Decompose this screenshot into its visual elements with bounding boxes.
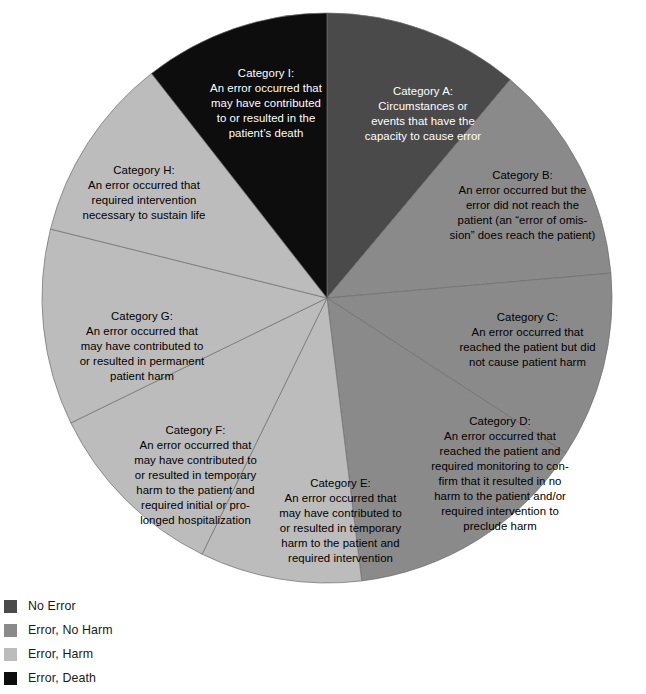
legend-label: Error, Death <box>28 671 96 685</box>
chart-legend: No ErrorError, No HarmError, HarmError, … <box>4 594 304 690</box>
pie-chart-page: Category A: Circumstances or events that… <box>0 0 646 694</box>
pie-slice-group <box>42 13 612 583</box>
legend-item-error-death[interactable]: Error, Death <box>4 666 304 690</box>
legend-label: No Error <box>28 599 76 613</box>
legend-label: Error, No Harm <box>28 623 113 637</box>
legend-swatch-icon <box>4 648 17 661</box>
legend-item-error-no-harm[interactable]: Error, No Harm <box>4 618 304 642</box>
pie-chart-svg <box>0 0 646 600</box>
legend-swatch-icon <box>4 672 17 685</box>
legend-swatch-icon <box>4 600 17 613</box>
pie-chart: Category A: Circumstances or events that… <box>0 0 646 600</box>
legend-item-error-harm[interactable]: Error, Harm <box>4 642 304 666</box>
legend-item-no-error[interactable]: No Error <box>4 594 304 618</box>
legend-label: Error, Harm <box>28 647 93 661</box>
legend-swatch-icon <box>4 624 17 637</box>
